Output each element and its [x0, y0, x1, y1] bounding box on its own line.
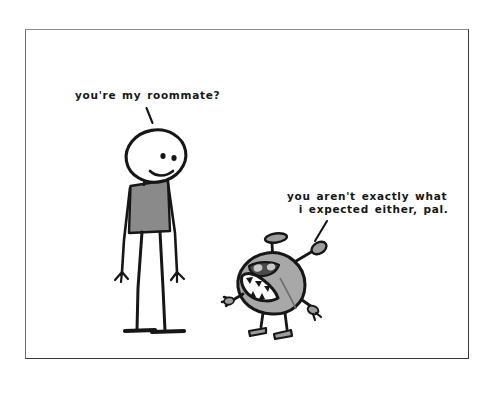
cartoon-scene: you're my roommate? you aren't exactly w…	[0, 0, 493, 397]
caption-roommate: you're my roommate?	[75, 89, 220, 102]
caption-expected: you aren't exactly what i expected eithe…	[287, 190, 448, 216]
